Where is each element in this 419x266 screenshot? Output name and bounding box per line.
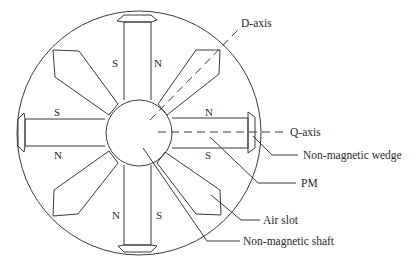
pole-label-top-left: S bbox=[112, 57, 118, 69]
air-slot-bottom-right bbox=[157, 152, 221, 215]
pm-top bbox=[117, 15, 157, 100]
pole-label-right-top: N bbox=[205, 106, 213, 118]
d-axis-label: D-axis bbox=[241, 17, 272, 29]
callout-air-slot: Air slot bbox=[263, 214, 299, 226]
q-axis-label: Q-axis bbox=[290, 126, 321, 138]
pm-bottom bbox=[118, 165, 157, 252]
rotor-diagram: D-axis Q-axis S N S N N S N S Non-magnet… bbox=[0, 0, 419, 266]
pm-left bbox=[18, 113, 105, 152]
callout-shaft: Non-magnetic shaft bbox=[243, 235, 335, 248]
wedge-top bbox=[117, 15, 157, 22]
air-slot-bottom-left bbox=[53, 151, 118, 216]
wedge-left bbox=[18, 113, 25, 152]
callout-wedge: Non-magnetic wedge bbox=[303, 149, 402, 162]
pole-label-right-bottom: S bbox=[205, 149, 211, 161]
pole-label-bottom-right: S bbox=[156, 209, 162, 221]
air-slot-top-left bbox=[53, 50, 118, 115]
pole-label-bottom-left: N bbox=[112, 209, 120, 221]
d-axis-line bbox=[150, 30, 238, 120]
rotor-outline bbox=[17, 11, 261, 255]
pole-label-left-top: S bbox=[54, 106, 60, 118]
pole-label-top-right: N bbox=[154, 57, 162, 69]
callout-pm: PM bbox=[301, 177, 318, 189]
wedge-bottom bbox=[118, 245, 157, 252]
pole-label-left-bottom: N bbox=[54, 149, 62, 161]
